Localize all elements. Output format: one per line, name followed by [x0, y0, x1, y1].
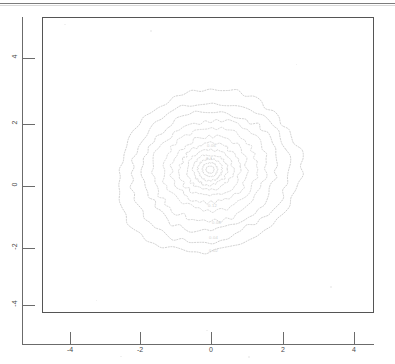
y-tick-2	[23, 124, 35, 125]
x-axis-label-0: 0	[200, 346, 222, 353]
y-axis-label-4: 4	[11, 49, 18, 65]
scan-speck	[206, 330, 208, 331]
scan-speck	[248, 356, 250, 358]
scan-speck	[296, 64, 297, 65]
y-axis-label-2: 2	[11, 115, 18, 131]
scan-speck	[150, 30, 152, 32]
contour-label-0-08: 0.08	[212, 220, 221, 225]
scan-speck	[330, 286, 332, 288]
y-axis-label-0: 0	[11, 177, 18, 193]
y-tick-neg2	[23, 248, 35, 249]
y-tick-neg4	[23, 305, 35, 306]
contour-level-0.22	[202, 162, 218, 177]
x-axis-label-neg2: -2	[129, 346, 151, 353]
contour-label-0-06: 0.06	[207, 143, 216, 148]
y-axis-label-neg4: -4	[11, 296, 18, 312]
x-tick-0	[211, 332, 212, 344]
scan-speck	[120, 356, 122, 357]
outer-axis-left	[22, 17, 23, 345]
contour-level-0.2	[197, 158, 223, 181]
x-axis-label-2: 2	[272, 346, 294, 353]
contour-level-0.1	[163, 127, 258, 212]
contour-label-0-1: 0.1	[206, 156, 212, 161]
y-axis-label-neg2: -2	[11, 239, 18, 255]
figure-canvas: 420-2-4-4-2024 0.060.10.120.080.040.02	[0, 0, 395, 364]
contour-level-0.24	[206, 166, 214, 173]
y-tick-4	[23, 58, 35, 59]
x-axis-label-neg4: -4	[59, 346, 81, 353]
y-tick-0	[23, 186, 35, 187]
scan-speck	[96, 300, 97, 301]
x-tick-neg4	[70, 332, 71, 344]
contour-label-0-12: 0.12	[208, 203, 217, 208]
contour-lines	[42, 17, 374, 313]
contour-label-0-04: 0.04	[209, 235, 218, 240]
x-tick-2	[283, 332, 284, 344]
contour-level-0.02	[119, 89, 304, 254]
x-axis-label-4: 4	[343, 346, 365, 353]
page-rule-top-secondary	[0, 5, 395, 6]
contour-label-0-02: 0.02	[209, 248, 218, 253]
x-tick-4	[354, 332, 355, 344]
outer-axis-bottom	[22, 344, 374, 345]
page-rule-top	[0, 3, 395, 4]
x-tick-neg2	[140, 332, 141, 344]
scan-speck	[64, 24, 66, 25]
contour-level-0.04	[130, 103, 291, 244]
